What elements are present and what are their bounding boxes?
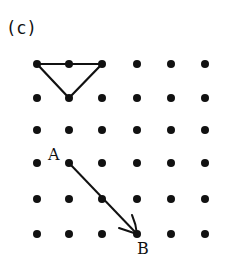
dot-grid-diagram: A B (0, 0, 226, 269)
grid-dot (65, 126, 73, 134)
grid-dot (133, 94, 141, 102)
grid-dot (133, 159, 141, 167)
point-b-label: B (137, 239, 149, 258)
grid-dot (33, 159, 41, 167)
grid-dot (133, 126, 141, 134)
segment-a-to-b (69, 163, 137, 234)
grid-dot (98, 230, 106, 238)
grid-dot (65, 195, 73, 203)
grid-dot (33, 195, 41, 203)
point-a-label: A (47, 145, 60, 164)
grid-dot (167, 230, 175, 238)
grid-dot (33, 94, 41, 102)
grid-dot (98, 126, 106, 134)
grid-dot (201, 195, 209, 203)
grid-dot (33, 230, 41, 238)
grid-dot (133, 195, 141, 203)
triangle-shape (37, 64, 102, 98)
grid-dot (201, 60, 209, 68)
grid-dot (167, 126, 175, 134)
grid-dot (201, 94, 209, 102)
grid-dot (201, 126, 209, 134)
grid-dot (201, 159, 209, 167)
grid-dot (167, 195, 175, 203)
grid-dot (167, 159, 175, 167)
grid-dot (98, 94, 106, 102)
grid-dot (201, 230, 209, 238)
grid-dot (98, 159, 106, 167)
grid-dot (167, 94, 175, 102)
grid-dot (133, 60, 141, 68)
grid-dot (167, 60, 175, 68)
grid-dot (65, 230, 73, 238)
grid-dot (33, 126, 41, 134)
